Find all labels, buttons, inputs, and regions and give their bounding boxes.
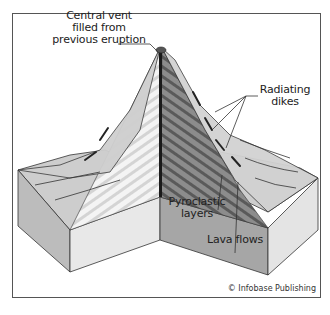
label-line: dikes — [250, 96, 320, 108]
label-line: layers — [162, 208, 232, 220]
label-radiating-dikes: Radiating dikes — [250, 84, 320, 108]
label-pyroclastic-layers: Pyroclastic layers — [162, 196, 232, 220]
volcano-cross-section-illustration — [0, 0, 330, 315]
central-vent — [159, 52, 162, 197]
label-central-vent: Central vent filled from previous erupti… — [40, 10, 158, 46]
credit-text: © Infobase Publishing — [228, 284, 316, 293]
label-lava-flows: Lava flows — [200, 234, 270, 246]
label-line: previous eruption — [40, 34, 158, 46]
vent-crater — [156, 47, 166, 53]
